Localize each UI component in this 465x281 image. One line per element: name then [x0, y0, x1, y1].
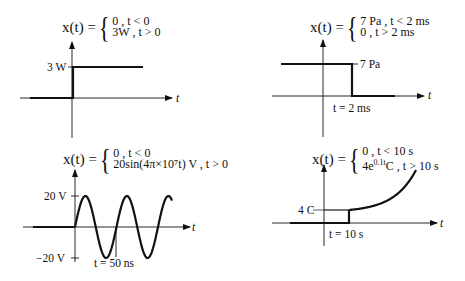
ytick-label: 7 Pa — [360, 58, 380, 70]
x-axis-label: t — [192, 221, 195, 233]
x-axis-label: t — [440, 217, 443, 229]
xtick-label: t = 10 s — [329, 228, 363, 240]
xtick-label: t = 2 ms — [333, 102, 370, 114]
panel-d-equation: x(t) ={0 , t < 10 s4e0.1tC , t > 10 s — [312, 146, 439, 172]
xtick-label: t = 50 ns — [94, 257, 134, 269]
signal-plots — [0, 0, 465, 281]
ytick-label: 3 W — [47, 61, 66, 73]
panel-a-equation: x(t) ={0 , t < 03W , t > 0 — [62, 14, 161, 40]
panel-a-plot — [20, 42, 172, 138]
signal-trace — [349, 170, 416, 210]
panel-c-equation: x(t) ={0 , t < 020sin(4π×10⁷t) V , t > 0 — [63, 146, 228, 172]
panel-b-equation: x(t) ={7 Pa , t < 2 ms0 , t > 2 ms — [310, 14, 429, 40]
x-axis-label: t — [428, 89, 431, 101]
x-axis-label: t — [176, 92, 179, 104]
panel-c-plot — [23, 170, 190, 262]
ytick-label: 4 C — [298, 204, 314, 216]
ytick-label-top: 20 V — [44, 190, 66, 202]
ytick-label-bottom: −20 V — [36, 252, 65, 264]
panel-b-plot — [272, 40, 424, 137]
